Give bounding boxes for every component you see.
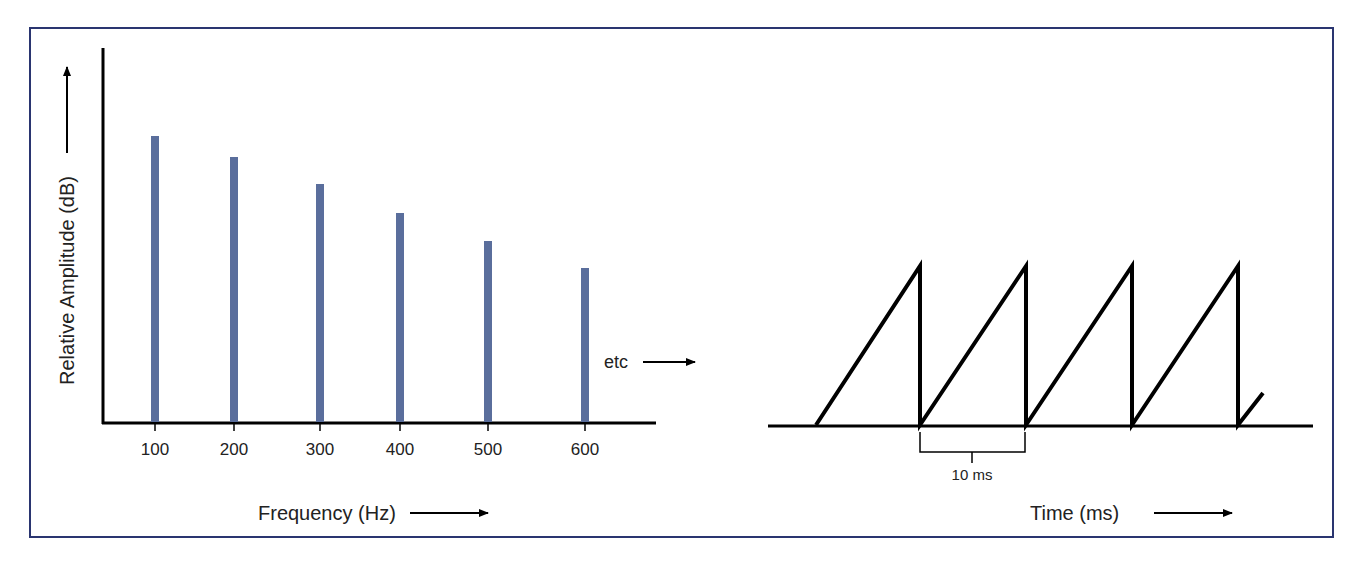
period-label: 10 ms (952, 466, 993, 483)
spectrum-chart: 100200300400500600 Relative Amplitude (d… (56, 48, 695, 524)
time-axis-label: Time (ms) (1030, 502, 1119, 524)
period-bracket (920, 432, 1025, 452)
y-axis-label-group: Relative Amplitude (dB) (56, 67, 78, 385)
x-axis-label: Frequency (Hz) (258, 502, 396, 524)
bar-300 (316, 184, 324, 422)
bar-400 (396, 213, 404, 422)
bar-100 (151, 136, 159, 422)
bar-500 (484, 241, 492, 422)
tick-label: 200 (220, 440, 248, 459)
tick-label: 500 (474, 440, 502, 459)
bars (151, 136, 589, 422)
waveform-chart: 10 ms Time (ms) (768, 266, 1313, 524)
bar-200 (230, 157, 238, 422)
tick-label: 600 (571, 440, 599, 459)
etc-label: etc (604, 352, 628, 372)
sawtooth-waveform (816, 266, 1263, 425)
y-axis-label: Relative Amplitude (dB) (56, 176, 78, 385)
bar-600 (581, 268, 589, 422)
x-ticks: 100200300400500600 (141, 424, 599, 459)
tick-label: 300 (306, 440, 334, 459)
tick-label: 100 (141, 440, 169, 459)
figure-canvas: 100200300400500600 Relative Amplitude (d… (0, 0, 1359, 568)
tick-label: 400 (386, 440, 414, 459)
